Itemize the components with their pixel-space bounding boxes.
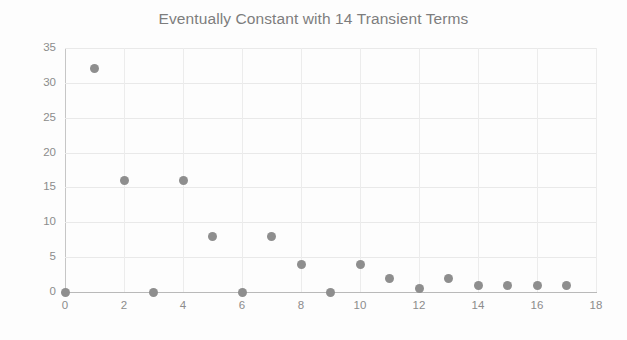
gridline-vertical [478,48,479,292]
y-tick-label: 5 [26,251,56,263]
data-point [238,288,247,297]
data-point [267,232,276,241]
y-tick-label: 0 [26,286,56,298]
data-point [208,232,217,241]
gridline-vertical [537,48,538,292]
x-tick-label: 2 [109,300,139,312]
gridline-vertical [419,48,420,292]
data-point [385,274,394,283]
data-point [297,260,306,269]
x-tick-label: 8 [286,300,316,312]
gridline-vertical [183,48,184,292]
x-tick-label: 14 [463,300,493,312]
gridline-vertical [301,48,302,292]
data-point [120,176,129,185]
y-tick-label: 10 [26,216,56,228]
x-tick-label: 6 [227,300,257,312]
x-tick-label: 10 [345,300,375,312]
x-tick-label: 18 [581,300,611,312]
data-point [533,281,542,290]
data-point [444,274,453,283]
data-point [179,176,188,185]
data-point [326,288,335,297]
data-point [149,288,158,297]
x-tick-label: 16 [522,300,552,312]
data-point [474,281,483,290]
data-point [562,281,571,290]
data-point [503,281,512,290]
x-tick-label: 0 [50,300,80,312]
plot-area [65,48,596,292]
gridline-horizontal [65,187,596,188]
x-tick-label: 4 [168,300,198,312]
gridline-horizontal [65,153,596,154]
data-point [356,260,365,269]
chart-title: Eventually Constant with 14 Transient Te… [0,10,627,28]
y-tick-label: 35 [26,42,56,54]
gridline-horizontal [65,83,596,84]
gridline-vertical [596,48,597,292]
gridline-horizontal [65,118,596,119]
data-point [61,288,70,297]
gridline-horizontal [65,48,596,49]
y-tick-label: 15 [26,181,56,193]
y-tick-label: 30 [26,77,56,89]
chart-page: Eventually Constant with 14 Transient Te… [0,0,627,340]
data-point [90,64,99,73]
y-tick-label: 20 [26,147,56,159]
gridline-horizontal [65,257,596,258]
gridline-horizontal [65,222,596,223]
data-point [415,284,424,293]
gridline-vertical [360,48,361,292]
x-tick-label: 12 [404,300,434,312]
gridline-vertical [124,48,125,292]
gridline-vertical [242,48,243,292]
y-tick-label: 25 [26,112,56,124]
